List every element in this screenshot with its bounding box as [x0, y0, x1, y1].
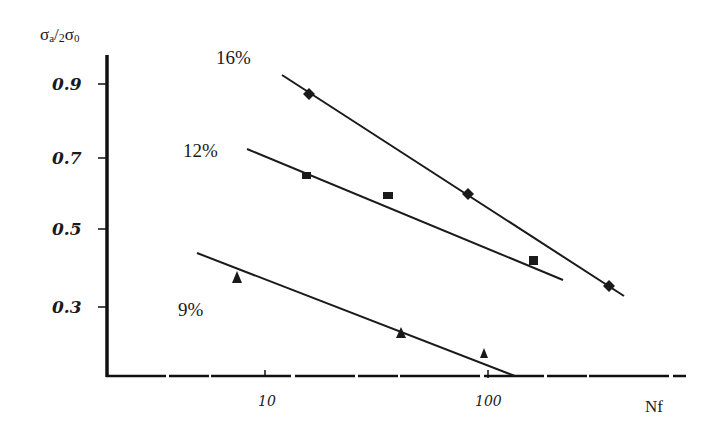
series-label-9: 9%: [178, 299, 204, 320]
x-axis-title: Nf: [645, 397, 663, 416]
square-marker: [302, 172, 311, 179]
series-16: 16%: [216, 47, 624, 296]
series-label-16: 16%: [216, 47, 251, 68]
y-tick-label: 0.7: [52, 148, 82, 168]
square-marker: [383, 192, 393, 199]
triangle-marker: [232, 271, 242, 283]
y-axis-title: σa/2σ0: [40, 25, 80, 45]
x-tick-label: 10: [258, 393, 276, 409]
y-tick-label: 0.3: [52, 297, 82, 317]
series-label-12: 12%: [183, 140, 218, 161]
series-9: 9%: [178, 253, 515, 376]
chart: σa/2σ0 0.9 0.7 0.5 0.3 10 100 Nf 16% 12%: [0, 0, 711, 434]
x-tick-label: 100: [475, 393, 502, 409]
series-12: 12%: [183, 140, 563, 280]
y-tick-label: 0.9: [52, 74, 82, 94]
square-marker: [529, 256, 538, 265]
triangle-marker: [480, 348, 488, 358]
y-tick-label: 0.5: [52, 219, 82, 239]
